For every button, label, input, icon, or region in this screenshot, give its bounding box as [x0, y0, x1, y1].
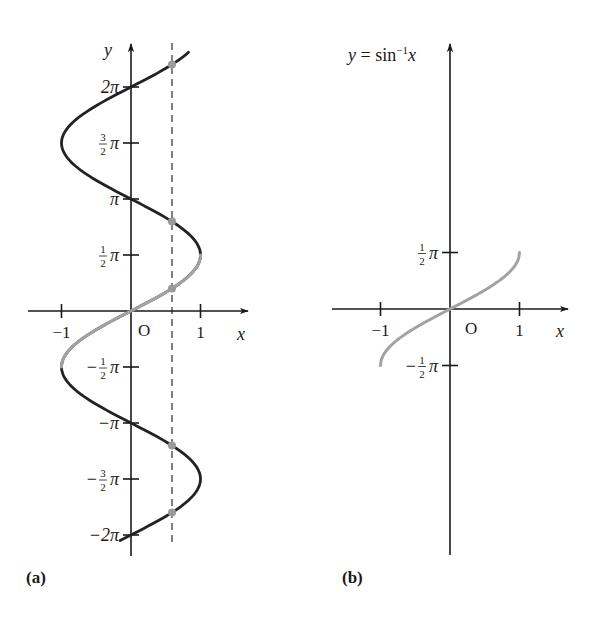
panel-a-caption: (a)	[26, 568, 46, 588]
x-tick-label: −1	[52, 323, 70, 342]
svg-text:π: π	[429, 243, 439, 263]
svg-text:2: 2	[100, 481, 106, 493]
svg-text:2: 2	[100, 369, 106, 381]
x-tick-label: 1	[196, 323, 205, 342]
panel-b-title-y: y	[346, 45, 356, 65]
y-tick-label: π12	[418, 241, 439, 267]
panel-b: −11 π12π12− x O y = sin−1x	[332, 44, 568, 555]
intersection-dot	[168, 285, 176, 293]
panel-a: −11 2ππ32ππ12π12−−ππ32−−2π x y O	[28, 40, 248, 556]
svg-text:2: 2	[419, 368, 425, 380]
figure-canvas: −11 2ππ32ππ12π12−−ππ32−−2π x y O −11 π12…	[0, 0, 599, 628]
x-tick-label: 1	[515, 321, 524, 340]
panel-a-x-ticks: −11	[52, 304, 204, 342]
panel-a-y-label: y	[102, 40, 112, 60]
svg-text:2: 2	[100, 145, 106, 157]
panel-b-title-eq: = sin	[356, 45, 396, 65]
svg-text:π: π	[110, 133, 120, 153]
svg-text:3: 3	[100, 131, 106, 143]
panel-b-x-label: x	[555, 321, 564, 341]
svg-text:3: 3	[100, 467, 106, 479]
panel-b-title-x: x	[407, 45, 416, 65]
y-tick-label: π12−	[87, 355, 120, 381]
y-tick-label: π12−	[406, 354, 439, 380]
svg-text:2: 2	[100, 257, 106, 269]
panel-a-x-label: x	[236, 324, 245, 344]
svg-text:π: π	[110, 469, 120, 489]
panel-a-origin-label: O	[138, 321, 150, 340]
panel-b-title: y = sin−1x	[346, 44, 416, 65]
intersection-dot	[168, 508, 176, 516]
y-tick-label: −2π	[89, 525, 120, 545]
intersection-dot	[168, 61, 176, 69]
svg-text:−: −	[87, 469, 97, 489]
x-tick-label: −1	[371, 321, 389, 340]
panel-b-caption: (b)	[342, 568, 363, 588]
svg-text:1: 1	[419, 241, 425, 253]
y-tick-label: π12	[99, 243, 120, 269]
intersection-dot	[168, 442, 176, 450]
svg-text:2: 2	[419, 255, 425, 267]
svg-text:1: 1	[100, 355, 106, 367]
panel-b-origin-label: O	[465, 319, 477, 338]
svg-text:1: 1	[419, 354, 425, 366]
intersection-dot	[168, 217, 176, 225]
svg-text:π: π	[429, 356, 439, 376]
panel-b-x-ticks: −11	[371, 302, 523, 340]
y-tick-label: π32−	[87, 467, 120, 493]
panel-b-title-sup: −1	[396, 44, 408, 56]
svg-text:π: π	[110, 245, 120, 265]
y-tick-label: π32	[99, 131, 120, 157]
svg-text:−: −	[87, 357, 97, 377]
svg-text:π: π	[110, 357, 120, 377]
svg-text:1: 1	[100, 243, 106, 255]
svg-text:−: −	[406, 356, 416, 376]
